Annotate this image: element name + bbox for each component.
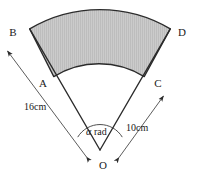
label-vertex-d: D — [178, 26, 186, 38]
label-central-angle: α rad — [86, 126, 107, 137]
label-vertex-b: B — [9, 26, 16, 38]
label-vertex-c: C — [154, 77, 161, 89]
label-angle-unit: rad — [94, 126, 107, 137]
label-inner-radius: 10cm — [126, 122, 148, 133]
label-outer-radius: 16cm — [24, 101, 46, 112]
label-angle-symbol: α — [86, 126, 92, 137]
annular-sector-diagram: B D A C O 16cm 10cm α rad — [0, 0, 198, 173]
label-vertex-a: A — [39, 77, 47, 89]
geometry-figure: B D A C O 16cm 10cm α rad — [0, 0, 198, 173]
label-vertex-o: O — [99, 159, 107, 171]
